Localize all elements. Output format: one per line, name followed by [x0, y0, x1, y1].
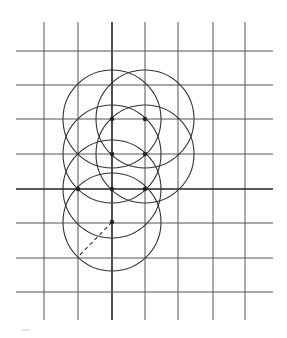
circle-grid-diagram [0, 0, 287, 338]
point-marker [76, 187, 80, 191]
coordinate-grid [16, 22, 273, 320]
point-marker [143, 187, 147, 191]
circles-group [63, 70, 194, 271]
point-marker [110, 187, 114, 191]
diagram-canvas [0, 0, 287, 338]
radius-segment [78, 222, 112, 257]
dashed-radius-line [78, 222, 112, 257]
point-marker [143, 117, 147, 121]
point-marker [110, 220, 114, 224]
point-marker [110, 152, 114, 156]
point-marker [143, 152, 147, 156]
point-marker [110, 117, 114, 121]
